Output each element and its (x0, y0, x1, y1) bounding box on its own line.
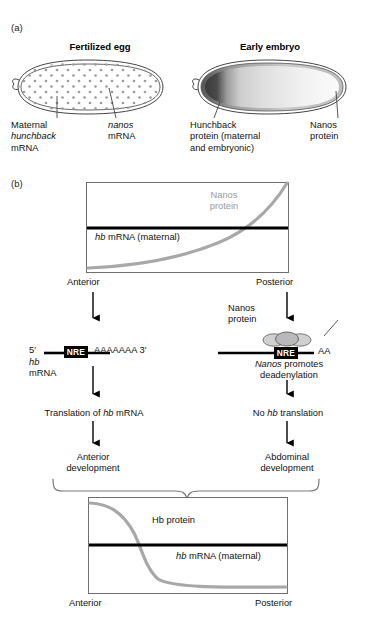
bottom-baseline-italic: hb (176, 551, 186, 561)
outcome-left-line1: Anterior (43, 452, 143, 463)
bottom-graph-anterior-label: Anterior (69, 598, 102, 608)
bottom-graph-baseline-label: hb mRNA (maternal) (176, 551, 261, 561)
bottom-baseline-rest: mRNA (maternal) (186, 551, 260, 561)
outcome-left-line2: development (43, 463, 143, 474)
outcome-right-line2: development (237, 463, 337, 474)
bottom-graph-posterior-label: Posterior (255, 598, 292, 608)
panel-b-letter: (b) (11, 178, 23, 189)
top-graph-anterior-label: Anterior (67, 277, 100, 287)
outcome-right-line1: Abdominal (237, 452, 337, 463)
maternal-label-line3: mRNA (11, 143, 91, 154)
top-baseline-italic: hb (95, 232, 105, 242)
nanos-mrna-label-line1: nanos (108, 120, 133, 130)
nanos-complex-line2: protein (228, 314, 280, 325)
nanos-protein-label: Nanos protein (310, 120, 365, 143)
five-prime-label-left: 5′ (29, 345, 36, 356)
top-baseline-rest: mRNA (maternal) (105, 232, 179, 242)
nre-box-left: NRE (64, 346, 88, 359)
hb-protein-curve-label: Hb protein (152, 515, 195, 525)
polya-tail-left: AAAAAAA 3′ (94, 345, 146, 356)
nanos-mrna-label: nanos mRNA (108, 120, 168, 143)
maternal-label-line2: hunchback (11, 131, 56, 141)
translation-pre: Translation of (45, 408, 104, 418)
branch-arrows-bottom (0, 421, 366, 453)
branch-arrows-top (0, 292, 366, 328)
nanos-curve-label-line1: Nanos (196, 190, 252, 201)
nanos-protein-complex-label: Nanos protein (228, 303, 280, 326)
nanos-gradient-chart (86, 182, 289, 273)
maternal-hunchback-mrna-label: Maternal hunchback mRNA (11, 120, 91, 154)
branch-arrows-mid (0, 366, 366, 404)
nanos-curve-label-line2: protein (196, 201, 252, 212)
translation-statement-left: Translation of hb mRNA (24, 408, 164, 419)
no-translation-post: translation (278, 408, 323, 418)
hunchback-protein-label: Hunchback protein (maternal and embryoni… (190, 120, 300, 154)
maternal-label-line1: Maternal (11, 120, 91, 131)
early-embryo-title: Early embryo (200, 41, 340, 52)
fertilized-egg-title: Fertilized egg (30, 41, 170, 52)
top-graph-baseline-label: hb mRNA (maternal) (95, 232, 180, 242)
outcome-right: Abdominal development (237, 452, 337, 475)
panel-a-letter: (a) (11, 22, 23, 33)
nanos-mrna-label-line2: mRNA (108, 131, 168, 142)
nanos-protein-curve-label: Nanos protein (196, 190, 252, 212)
nanos-protein-line2: protein (310, 131, 365, 142)
translation-post: mRNA (113, 408, 143, 418)
hb-protein-gradient-chart (88, 497, 288, 594)
no-translation-pre: No (253, 408, 267, 418)
hunchback-protein-line2: protein (maternal (190, 131, 300, 142)
early-embryo-illustration (190, 56, 355, 118)
nanos-protein-line1: Nanos (310, 120, 365, 131)
polya-tail-right: AA (318, 346, 330, 357)
no-translation-hb-italic: hb (267, 408, 277, 418)
fertilized-egg-illustration (10, 56, 170, 118)
translation-hb-italic: hb (103, 408, 113, 418)
hunchback-protein-line3: and embryonic) (190, 143, 300, 154)
top-graph-posterior-label: Posterior (256, 277, 293, 287)
nre-box-right: NRE (274, 347, 298, 360)
translation-statement-right: No hb translation (228, 408, 348, 419)
nanos-complex-line1: Nanos (228, 303, 280, 314)
figure-root: (a) Fertilized egg Early embryo Maternal… (0, 0, 366, 622)
hunchback-protein-line1: Hunchback (190, 120, 300, 131)
outcome-left: Anterior development (43, 452, 143, 475)
